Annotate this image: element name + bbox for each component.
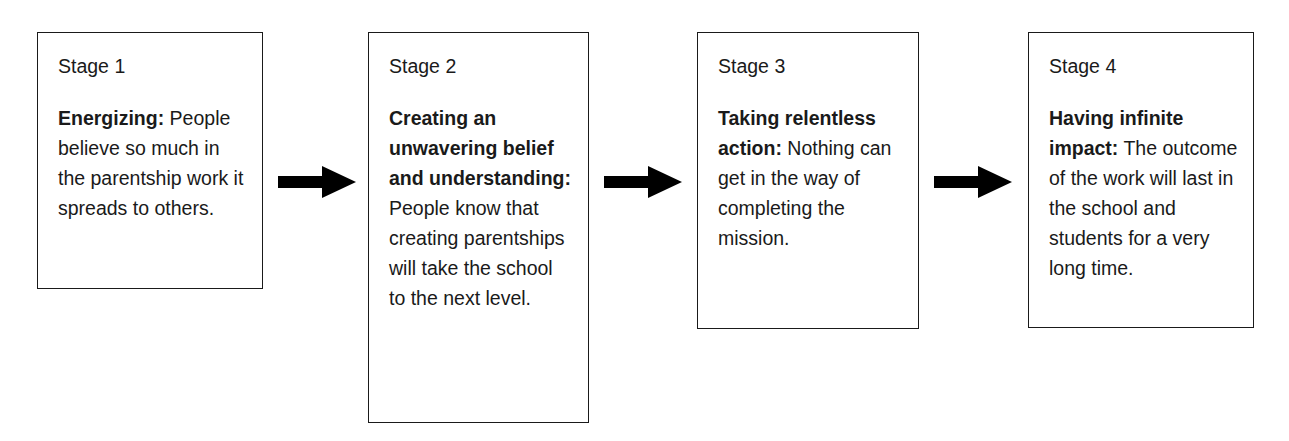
arrow-stage3-to-stage4 — [934, 166, 1012, 198]
stage-description-1: Energizing: People believe so much in th… — [58, 103, 248, 223]
stage-text-2: People know that creating parentships wi… — [389, 197, 565, 309]
stage-label-4: Stage 4 — [1049, 51, 1239, 81]
stage-description-2: Creating an unwavering belief and unders… — [389, 103, 574, 313]
stage-description-4: Having infinite impact: The outcome of t… — [1049, 103, 1239, 283]
stage-lead-2: Creating an unwavering belief and unders… — [389, 107, 571, 189]
stage-spacer-1 — [58, 81, 248, 103]
stage-box-2: Stage 2 Creating an unwavering belief an… — [368, 32, 589, 423]
right-arrow-icon — [278, 166, 356, 198]
stage-spacer-3 — [718, 81, 904, 103]
stage-flow-diagram: Stage 1 Energizing: People believe so mu… — [0, 0, 1289, 441]
stage-lead-1: Energizing: — [58, 107, 164, 129]
stage-spacer-2 — [389, 81, 574, 103]
stage-spacer-4 — [1049, 81, 1239, 103]
right-arrow-icon — [934, 166, 1012, 198]
stage-label-3: Stage 3 — [718, 51, 904, 81]
arrow-stage2-to-stage3 — [604, 166, 682, 198]
stage-label-2: Stage 2 — [389, 51, 574, 81]
stage-description-3: Taking relentless action: Nothing can ge… — [718, 103, 904, 253]
stage-box-4: Stage 4 Having infinite impact: The outc… — [1028, 32, 1254, 328]
stage-label-1: Stage 1 — [58, 51, 248, 81]
right-arrow-icon — [604, 166, 682, 198]
stage-box-3: Stage 3 Taking relentless action: Nothin… — [697, 32, 919, 329]
arrow-stage1-to-stage2 — [278, 166, 356, 198]
stage-box-1: Stage 1 Energizing: People believe so mu… — [37, 32, 263, 289]
